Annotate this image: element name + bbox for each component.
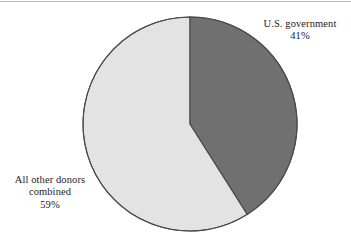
pie-label-all-other-donors-name-line1: All other donors [4, 174, 96, 186]
pie-label-all-other-donors-name-line2: combined [4, 186, 96, 198]
pie-label-us-government-name: U.S. government [253, 18, 347, 30]
pie-label-us-government-value: 41% [253, 30, 347, 42]
pie-label-all-other-donors-value: 59% [4, 199, 96, 211]
pie-label-all-other-donors: All other donors combined 59% [4, 174, 96, 211]
pie-label-us-government: U.S. government 41% [253, 18, 347, 43]
chart-figure: U.S. government 41% All other donors com… [0, 0, 351, 247]
